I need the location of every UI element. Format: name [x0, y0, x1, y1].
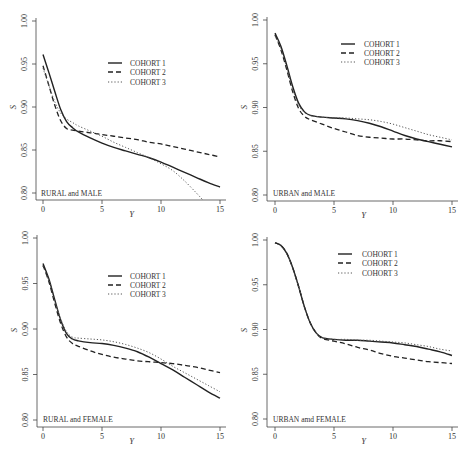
y-tick-label: 0.90 — [21, 322, 30, 336]
y-tick-label: 0.90 — [20, 100, 29, 114]
y-tick-label: 1.00 — [251, 13, 260, 27]
y-tick-label: 0.85 — [251, 367, 260, 381]
chart-panel-top-left: 0.800.850.900.951.00051015YSRURAL and MA… — [8, 14, 226, 219]
x-tick-label: 10 — [157, 432, 165, 441]
figure-canvas: 0.800.850.900.951.00051015YSRURAL and MA… — [0, 0, 468, 455]
x-tick-label: 5 — [332, 206, 336, 215]
y-axis-label: S — [8, 104, 18, 109]
panel-annotation: URBAN amd FEMALE — [273, 415, 346, 424]
y-tick-label: 0.95 — [21, 277, 30, 291]
x-tick-label: 0 — [273, 432, 277, 441]
y-tick-label: 0.85 — [251, 144, 260, 158]
legend-label: COHORT 2 — [130, 68, 166, 77]
y-tick-label: 0.85 — [21, 368, 30, 382]
survival-curves-figure: 0.800.850.900.951.00051015YSRURAL and MA… — [0, 0, 468, 455]
x-tick-label: 0 — [41, 432, 45, 441]
x-tick-label: 10 — [389, 432, 397, 441]
y-tick-label: 0.90 — [251, 101, 260, 115]
legend-label: COHORT 1 — [130, 59, 166, 68]
x-tick-label: 0 — [41, 205, 45, 214]
legend: COHORT 1COHORT 2COHORT 3 — [108, 59, 166, 87]
panel-annotation: RURAL and MALE — [41, 189, 102, 198]
legend-label: COHORT 1 — [364, 40, 400, 49]
y-tick-label: 0.95 — [251, 57, 260, 71]
x-tick-label: 15 — [216, 432, 224, 441]
panel-annotation: URBAN and MALE — [273, 189, 335, 198]
x-tick-label: 10 — [389, 206, 397, 215]
legend-label: COHORT 2 — [362, 259, 398, 268]
legend-label: COHORT 1 — [130, 272, 166, 281]
chart-panel-bottom-right: 0.800.850.900.951.00051015YSURBAN amd FE… — [239, 233, 458, 446]
x-tick-label: 5 — [100, 432, 104, 441]
x-tick-label: 15 — [448, 206, 456, 215]
x-tick-label: 5 — [100, 205, 104, 214]
legend-label: COHORT 3 — [130, 290, 166, 299]
legend-label: COHORT 1 — [362, 250, 398, 259]
y-tick-label: 1.00 — [251, 233, 260, 247]
x-tick-label: 15 — [216, 205, 224, 214]
x-tick-label: 15 — [448, 432, 456, 441]
y-tick-label: 0.80 — [21, 413, 30, 427]
legend-label: COHORT 3 — [364, 58, 400, 67]
legend-label: COHORT 3 — [130, 78, 166, 87]
y-tick-label: 0.95 — [20, 57, 29, 71]
chart-panel-top-right: 0.800.850.900.951.00051015YSURBAN and MA… — [239, 13, 458, 220]
legend-label: COHORT 2 — [364, 49, 400, 58]
y-tick-label: 0.80 — [251, 188, 260, 202]
x-axis-label: Y — [361, 436, 367, 446]
y-axis-label: S — [9, 327, 19, 332]
legend: COHORT 1COHORT 2COHORT 3 — [338, 250, 398, 278]
panel-annotation: RURAL and FEMALE — [43, 415, 113, 424]
legend: COHORT 1COHORT 2COHORT 3 — [341, 40, 400, 67]
y-tick-label: 1.00 — [21, 231, 30, 245]
y-axis-label: S — [239, 327, 249, 332]
legend-label: COHORT 2 — [130, 281, 166, 290]
legend-label: COHORT 3 — [362, 269, 398, 278]
x-axis-label: Y — [129, 436, 135, 446]
y-tick-label: 0.90 — [251, 323, 260, 337]
x-tick-label: 10 — [157, 205, 165, 214]
y-tick-label: 0.85 — [20, 143, 29, 157]
x-tick-label: 5 — [332, 432, 336, 441]
x-axis-label: Y — [361, 210, 367, 220]
y-axis-label: S — [239, 104, 249, 109]
x-axis-label: Y — [129, 209, 135, 219]
y-tick-label: 0.80 — [251, 412, 260, 426]
y-tick-label: 0.80 — [20, 186, 29, 200]
series-line-cohort-3 — [43, 68, 203, 200]
y-tick-label: 0.95 — [251, 278, 260, 292]
chart-panel-bottom-left: 0.800.850.900.951.00051015YSRURAL and FE… — [9, 231, 226, 446]
x-tick-label: 0 — [273, 206, 277, 215]
legend: COHORT 1COHORT 2COHORT 3 — [108, 272, 166, 299]
y-tick-label: 1.00 — [20, 14, 29, 28]
